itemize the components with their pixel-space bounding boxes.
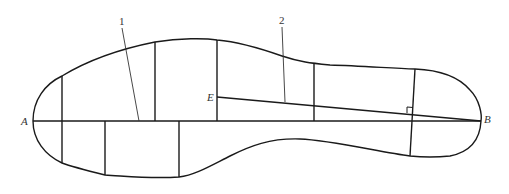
point-label-e: E	[206, 91, 214, 103]
callout-label-2: 2	[279, 14, 285, 26]
point-label-a: A	[20, 115, 28, 127]
leader-line-2	[282, 27, 285, 102]
line-eb	[217, 97, 481, 121]
point-label-b: B	[484, 113, 491, 125]
leader-line-1	[122, 28, 139, 121]
callout-label-1: 1	[119, 15, 125, 27]
perpendicular-line	[410, 69, 415, 156]
insole-outline	[33, 39, 481, 178]
insole-diagram: A B E 1 2	[0, 0, 509, 194]
